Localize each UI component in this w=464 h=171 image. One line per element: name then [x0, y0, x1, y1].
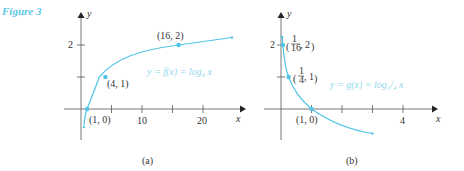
x-tick-label-10: 10: [137, 115, 147, 126]
y-axis-label-b: y: [286, 8, 292, 19]
point-label-16-2: (16, 2): [157, 30, 184, 42]
y-axis-arrow-icon: [78, 12, 85, 18]
point-1-16-2: [281, 43, 285, 47]
point-label-4-1: (4, 1): [107, 78, 129, 90]
equation-label-b: y = g(x) = log₁/₄ x: [329, 79, 404, 91]
curve-start-marker: [83, 126, 85, 128]
point-1-4-1: [286, 75, 290, 79]
x-tick-label-4: 4: [400, 115, 405, 126]
y-tick-label-2-a: 2: [68, 39, 73, 50]
caption-a: (a): [142, 155, 153, 167]
y-tick-label-2-b: 2: [270, 39, 275, 50]
x-axis-label-a: x: [235, 113, 241, 124]
panel-b: y x 2 4 ( 1 16 , 2 ) ( 1 4 , 1 ) (1, 0) …: [264, 8, 441, 167]
point-16-2: [176, 43, 180, 47]
curve-start-marker: [281, 36, 283, 38]
point-label-1-4-1: ( 1 4 , 1 ): [293, 65, 317, 85]
x-axis-arrow-icon: [240, 106, 246, 113]
svg-text:, 1: , 1: [304, 71, 314, 82]
svg-text:): ): [311, 41, 314, 53]
curve-end-marker: [371, 132, 373, 134]
y-axis-label-a: y: [86, 8, 92, 19]
svg-text:, 2: , 2: [300, 39, 310, 50]
point-1-0-b: [309, 107, 313, 111]
svg-text:(: (: [293, 73, 297, 85]
svg-text:(: (: [286, 41, 290, 53]
figure-svg: y x 2 10 20 (1, 0) (4, 1) (16, 2) y = f(…: [0, 0, 464, 171]
equation-label-a: y = f(x) = log₄ x: [146, 66, 213, 78]
ticks-a: [77, 45, 203, 113]
y-axis-arrow-icon: [278, 12, 285, 18]
panel-a: y x 2 10 20 (1, 0) (4, 1) (16, 2) y = f(…: [64, 8, 246, 167]
point-1-0: [85, 107, 89, 111]
svg-text:): ): [314, 73, 317, 85]
x-axis-arrow-icon: [432, 106, 438, 113]
curve-end-marker: [231, 36, 233, 38]
caption-b: (b): [346, 155, 358, 167]
point-label-1-0-b: (1, 0): [296, 114, 318, 126]
point-label-1-0-a: (1, 0): [89, 114, 111, 126]
x-tick-label-20: 20: [197, 115, 207, 126]
x-axis-label-b: x: [435, 113, 441, 124]
point-label-1-16-2: ( 1 16 , 2 ): [286, 33, 314, 53]
